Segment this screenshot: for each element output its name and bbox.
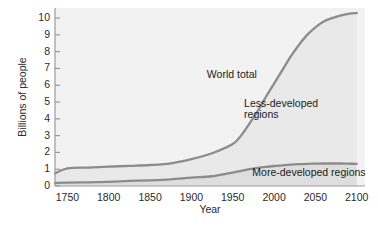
y-tick-label: 5 — [31, 95, 50, 107]
x-tick-label: 2100 — [337, 191, 377, 203]
y-tick-label: 3 — [31, 129, 50, 141]
y-tick-label: 9 — [31, 28, 50, 40]
annotation-1: World total — [207, 68, 257, 80]
y-tick-label: 0 — [31, 179, 50, 191]
x-tick-label: 1850 — [130, 191, 170, 203]
x-tick-label: 2050 — [295, 191, 335, 203]
y-axis-label: Billions of people — [16, 2, 32, 192]
y-tick-label: 2 — [31, 145, 50, 157]
x-axis-label: Year — [55, 203, 365, 215]
annotation-4: More-developed regions — [252, 166, 365, 178]
x-tick-label: 2000 — [254, 191, 294, 203]
y-tick-label: 4 — [31, 112, 50, 124]
y-tick-label: 10 — [31, 11, 50, 23]
y-tick-label: 8 — [31, 45, 50, 57]
annotation-3: regions — [244, 108, 278, 120]
x-tick-label: 1950 — [213, 191, 253, 203]
plot-area — [55, 8, 365, 186]
y-tick-label: 6 — [31, 78, 50, 90]
chart-svg — [55, 8, 365, 186]
y-tick-label: 1 — [31, 162, 50, 174]
annotation-2: Less-developed — [244, 97, 318, 109]
x-tick-label: 1800 — [89, 191, 129, 203]
population-growth-chart: Billions of people Year 012345678910 175… — [0, 0, 378, 231]
x-tick-label: 1750 — [47, 191, 87, 203]
y-tick-label: 7 — [31, 61, 50, 73]
x-tick-label: 1900 — [171, 191, 211, 203]
